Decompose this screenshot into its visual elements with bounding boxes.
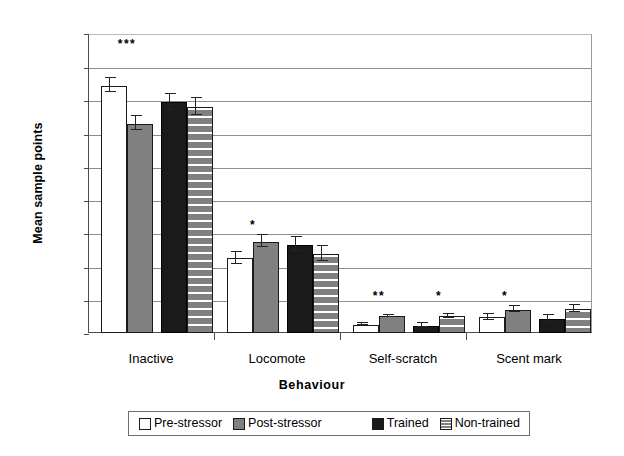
legend-label-post-stressor: Post-stressor: [248, 417, 322, 430]
category-label-self-scratch: Self-scratch: [340, 352, 466, 366]
bar-scent-mark-pre-stressor[interactable]: [479, 317, 505, 333]
bar-inactive-non-trained[interactable]: [187, 107, 213, 333]
legend-swatch-gray-icon: [233, 418, 245, 430]
bar-scent-mark-post-stressor[interactable]: [505, 310, 531, 333]
chart-legend: Pre-stressor Post-stressor Trained Non-t…: [128, 411, 530, 436]
errorbar-scent-mark-non-trained: [573, 304, 585, 312]
bar-group-inactive: ***: [88, 34, 214, 333]
bar-group-locomote: *: [214, 34, 340, 333]
bar-scent-mark-non-trained[interactable]: [565, 309, 591, 333]
bar-inactive-trained[interactable]: [161, 102, 187, 333]
significance-marker-scent-mark: *: [479, 290, 531, 302]
errorbar-inactive-post-stressor: [135, 115, 147, 130]
errorbar-scent-mark-pre-stressor: [487, 313, 499, 320]
category-label-inactive: Inactive: [88, 352, 214, 366]
errorbar-locomote-post-stressor: [261, 234, 273, 247]
legend-item-trained[interactable]: Trained: [372, 417, 429, 430]
category-tick-0: [214, 333, 215, 340]
legend-item-non-trained[interactable]: Non-trained: [440, 417, 520, 430]
errorbar-inactive-non-trained: [195, 97, 207, 115]
legend-item-pre-stressor[interactable]: Pre-stressor: [139, 417, 222, 430]
bar-inactive-post-stressor[interactable]: [127, 124, 153, 333]
category-tick-1: [340, 333, 341, 340]
errorbar-self-scratch-trained: [421, 322, 433, 327]
errorbar-self-scratch-post-stressor: [387, 314, 399, 317]
errorbar-self-scratch-pre-stressor: [361, 322, 373, 325]
significance-marker-self-scratch-trained: *: [413, 290, 465, 302]
errorbar-scent-mark-trained: [547, 314, 559, 322]
errorbar-locomote-trained: [295, 236, 307, 251]
bar-scent-mark-trained[interactable]: [539, 319, 565, 333]
bar-self-scratch-non-trained[interactable]: [439, 316, 465, 333]
legend-label-non-trained: Non-trained: [455, 417, 520, 430]
errorbar-self-scratch-non-trained: [447, 313, 459, 318]
legend-label-pre-stressor: Pre-stressor: [154, 417, 222, 430]
bar-locomote-pre-stressor[interactable]: [227, 258, 253, 333]
significance-marker-self-scratch-pre-post: **: [353, 290, 405, 302]
errorbar-locomote-non-trained: [321, 245, 333, 262]
bar-locomote-non-trained[interactable]: [313, 254, 339, 333]
errorbar-scent-mark-post-stressor: [513, 305, 525, 312]
y-tickmark-0: [84, 334, 89, 335]
x-axis-title: Behaviour: [0, 378, 624, 392]
bar-self-scratch-trained[interactable]: [413, 326, 439, 334]
errorbar-locomote-pre-stressor: [235, 251, 247, 264]
legend-label-trained: Trained: [387, 417, 429, 430]
bar-self-scratch-pre-stressor[interactable]: [353, 325, 379, 333]
bar-group-scent-mark: *: [466, 34, 592, 333]
bar-inactive-pre-stressor[interactable]: [101, 86, 127, 334]
legend-item-post-stressor[interactable]: Post-stressor: [233, 417, 322, 430]
legend-swatch-open-icon: [139, 418, 151, 430]
category-tick-2: [466, 333, 467, 340]
category-label-locomote: Locomote: [214, 352, 340, 366]
bar-self-scratch-post-stressor[interactable]: [379, 316, 405, 333]
y-axis-title: Mean sample points: [31, 83, 45, 283]
bar-chart-figure: Mean sample points 18 16 14 12 10 8 6 4 …: [0, 0, 624, 456]
bar-locomote-trained[interactable]: [287, 245, 313, 333]
bar-group-self-scratch: ** *: [340, 34, 466, 333]
bar-groups: *** *: [88, 34, 592, 333]
significance-marker-locomote: *: [227, 219, 279, 231]
legend-swatch-black-icon: [372, 418, 384, 430]
errorbar-inactive-trained: [169, 93, 181, 110]
errorbar-inactive-pre-stressor: [109, 77, 121, 92]
legend-swatch-striped-icon: [440, 418, 452, 430]
category-label-scent-mark: Scent mark: [466, 352, 592, 366]
significance-marker-inactive: ***: [101, 38, 153, 50]
bar-locomote-post-stressor[interactable]: [253, 242, 279, 333]
